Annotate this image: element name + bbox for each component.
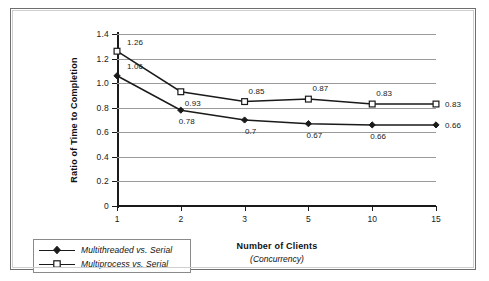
data-point-diamond [433, 122, 439, 128]
x-tick-label: 1 [115, 214, 120, 224]
y-tick-label: 1.0 [97, 78, 109, 88]
data-point-diamond [242, 117, 248, 123]
data-label: 0.7 [245, 127, 256, 136]
legend-item-label: Multiprocess vs. Serial [81, 259, 168, 269]
data-label: 0.78 [179, 117, 195, 126]
plot-area: 00.20.40.60.81.01.21.4 12351015 1.060.78… [117, 34, 436, 206]
data-point-square [369, 101, 375, 107]
y-tick-label: 1.4 [97, 29, 109, 39]
data-point-diamond [305, 121, 311, 127]
x-tick-mark [245, 206, 246, 211]
x-axis-subtitle: (Concurrency) [197, 254, 357, 264]
data-point-diamond [369, 122, 375, 128]
x-tick-mark [117, 206, 118, 211]
data-label: 0.66 [445, 120, 461, 129]
data-label: 1.06 [127, 61, 143, 70]
data-point-square [242, 99, 248, 105]
x-tick-label: 2 [178, 214, 183, 224]
legend: Multithreaded vs. Serial Multiprocess vs… [33, 239, 191, 273]
data-label: 0.83 [445, 100, 461, 109]
data-label: 0.93 [185, 98, 201, 107]
x-tick-label: 10 [367, 214, 376, 224]
x-tick-label: 5 [306, 214, 311, 224]
x-tick-label: 15 [431, 214, 440, 224]
data-point-square [433, 101, 439, 107]
x-tick-mark [436, 206, 437, 211]
data-point-square [306, 96, 312, 102]
y-tick-label: 0.6 [97, 127, 109, 137]
y-axis-title: Ratio of Time to Completion [67, 34, 81, 206]
data-label: 0.83 [376, 89, 392, 98]
y-tick-label: 0.4 [97, 152, 109, 162]
data-point-diamond [178, 107, 184, 113]
data-label: 0.87 [312, 84, 328, 93]
y-tick-label: 0.8 [97, 103, 109, 113]
data-label: 0.66 [370, 131, 386, 140]
x-tick-mark [181, 206, 182, 211]
legend-item-multithreaded: Multithreaded vs. Serial [39, 243, 172, 257]
y-tick-label: 0.2 [97, 176, 109, 186]
data-label: 0.67 [306, 130, 322, 139]
x-tick-mark [308, 206, 309, 211]
data-label: 1.26 [127, 38, 143, 47]
data-point-square [114, 48, 120, 54]
series-plot [117, 34, 436, 206]
x-axis-title: Number of Clients [197, 241, 357, 251]
filled-diamond-marker-icon [39, 244, 75, 256]
figure-frame: Ratio of Time to Completion 00.20.40.60.… [10, 8, 476, 270]
data-point-square [178, 89, 184, 95]
y-tick-label: 1.2 [97, 54, 109, 64]
y-tick-label: 0 [104, 201, 109, 211]
data-label: 0.85 [249, 86, 265, 95]
x-tick-mark [372, 206, 373, 211]
x-tick-label: 3 [242, 214, 247, 224]
legend-item-multiprocess: Multiprocess vs. Serial [39, 257, 168, 271]
legend-item-label: Multithreaded vs. Serial [81, 245, 172, 255]
data-point-diamond [114, 73, 120, 79]
open-square-marker-icon [39, 258, 75, 270]
